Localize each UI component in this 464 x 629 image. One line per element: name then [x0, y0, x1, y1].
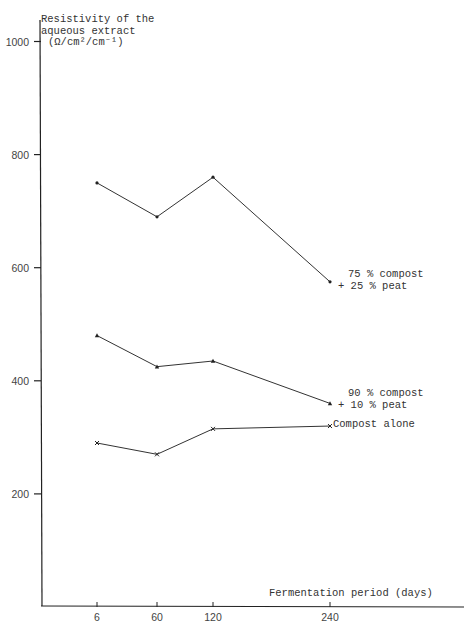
y-axis-label-line-1: Resistivity of the [41, 13, 154, 25]
series-label: Compost alone [333, 418, 415, 430]
y-tick-label: 800 [11, 149, 29, 161]
data-point-marker [211, 176, 214, 179]
series-label: + 25 % peat [338, 280, 407, 292]
series-line [97, 426, 330, 454]
y-axis [40, 20, 42, 606]
y-tick-label: 1000 [6, 36, 30, 48]
y-tick-label: 400 [11, 375, 29, 387]
x-tick-label: 60 [151, 611, 163, 623]
y-tick-label: 600 [11, 262, 29, 274]
x-axis-ticks: 660120240 [94, 602, 339, 623]
series-label: + 10 % peat [338, 399, 407, 411]
series-labels: 75 % compost+ 25 % peat90 % compost+ 10 … [333, 268, 424, 430]
y-axis-ticks: 2004006008001000 [6, 36, 41, 500]
x-axis [41, 606, 464, 607]
resistivity-line-chart: 2004006008001000 660120240 Resistivity o… [0, 0, 464, 629]
data-point-marker [95, 181, 98, 184]
x-axis-label: Fermentation period (days) [269, 587, 433, 599]
series-line [97, 177, 330, 282]
data-series [95, 176, 332, 457]
series-label: 90 % compost [348, 387, 424, 399]
data-point-marker [95, 333, 99, 337]
x-tick-label: 240 [321, 611, 339, 623]
data-point-marker [155, 215, 158, 218]
x-tick-label: 120 [204, 611, 222, 623]
y-axis-label-line-3: (Ω/cm²/cm⁻¹) [48, 36, 124, 48]
x-tick-label: 6 [94, 611, 100, 623]
series-line [97, 336, 330, 404]
y-tick-label: 200 [11, 488, 29, 500]
data-point-marker [328, 280, 331, 283]
series-label: 75 % compost [348, 268, 424, 280]
